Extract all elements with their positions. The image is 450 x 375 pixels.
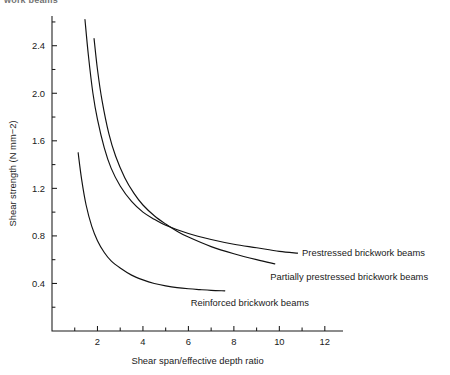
x-tick-label: 6 (186, 336, 191, 347)
x-tick-label: 10 (274, 336, 284, 347)
series-label: Partially prestressed brickwork beams (270, 271, 428, 282)
series-curve (85, 20, 298, 254)
series-curve (94, 39, 275, 264)
x-tick-label: 4 (140, 336, 145, 347)
x-axis-title: Shear span/effective depth ratio (131, 355, 263, 366)
axes (52, 16, 343, 331)
series-label: Prestressed brickwork beams (302, 247, 425, 258)
series-label: Reinforced brickwork beams (191, 297, 310, 308)
y-tick-label: 2.4 (32, 40, 45, 51)
axis-spines (52, 16, 343, 331)
y-axis-title: Shear strength (N mm−2) (7, 120, 18, 226)
chart-figure: 0.40.81.21.62.02.424681012Shear span/eff… (0, 0, 450, 375)
x-tick-label: 12 (320, 336, 330, 347)
x-tick-label: 2 (95, 336, 100, 347)
data-curves (78, 20, 297, 291)
y-tick-label: 1.2 (32, 183, 45, 194)
chart-text-labels: 0.40.81.21.62.02.424681012Shear span/eff… (7, 40, 428, 366)
y-tick-label: 1.6 (32, 135, 45, 146)
y-tick-label: 0.4 (32, 278, 45, 289)
y-tick-label: 0.8 (32, 230, 45, 241)
series-curve (78, 153, 225, 291)
y-tick-label: 2.0 (32, 88, 45, 99)
x-tick-label: 8 (231, 336, 236, 347)
